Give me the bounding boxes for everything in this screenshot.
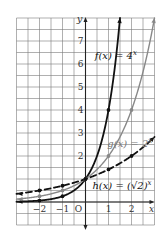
y-axis-label: y	[76, 13, 83, 24]
function-label: f(x) = 4x	[94, 49, 137, 61]
data-point-marker	[61, 184, 65, 188]
data-point-marker	[61, 194, 65, 198]
y-tick-label: 2	[78, 151, 84, 161]
function-label: g(x) = 2x	[107, 137, 152, 149]
x-tick-label: −1	[56, 204, 69, 214]
y-tick-label: 5	[78, 82, 84, 92]
data-point-marker	[38, 194, 42, 198]
x-tick-label: −2	[33, 204, 46, 214]
function-label: h(x) = (√2)x	[92, 179, 151, 191]
data-point-marker	[130, 154, 134, 158]
curve-end-arrow-icon	[117, 18, 122, 23]
data-point-marker	[107, 108, 111, 112]
data-point-marker	[107, 154, 111, 158]
y-tick-label: 3	[78, 128, 84, 138]
y-tick-label: 7	[78, 36, 84, 46]
data-point-marker	[107, 168, 111, 172]
x-tick-label: 2	[129, 204, 135, 214]
exponential-functions-chart: −2−1O12234567xy f(x) = 4xg(x) = 2xh(x) =…	[0, 0, 166, 244]
data-point-marker	[38, 199, 42, 203]
x-tick-label: O	[75, 204, 82, 214]
x-axis-label: x	[149, 204, 154, 214]
data-point-marker	[130, 108, 134, 112]
y-tick-label: 4	[78, 105, 84, 115]
x-tick-label: 1	[106, 204, 112, 214]
y-tick-label: 6	[78, 59, 84, 69]
chart-plot-area: −2−1O12234567xy f(x) = 4xg(x) = 2xh(x) =…	[0, 0, 166, 244]
function-curves	[17, 18, 157, 204]
y-axis-down-arrow-icon	[84, 225, 88, 230]
curve-start-arrow-icon	[18, 192, 23, 196]
data-point-marker	[61, 189, 65, 193]
data-point-marker	[38, 189, 42, 193]
data-point-marker	[84, 177, 88, 181]
